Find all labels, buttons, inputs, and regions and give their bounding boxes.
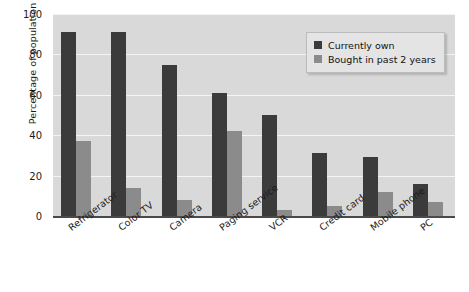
x-tick-label-mobile-phone: Mobile phone (368, 185, 427, 233)
x-tick-label-color-tv: Color TV (116, 199, 155, 232)
x-tick-label-vcr: VCR (267, 212, 290, 233)
x-tick-label-refrigerator: Refrigerator (66, 189, 119, 233)
legend-item-own: Currently own (314, 38, 436, 52)
legend-swatch-icon-own (314, 41, 322, 49)
legend-item-bought: Bought in past 2 years (314, 52, 436, 66)
bar-chart: Percentage of population 020406080100 Re… (0, 0, 469, 292)
legend-swatch-icon-bought (314, 55, 322, 63)
legend-label: Bought in past 2 years (328, 54, 436, 65)
x-tick-label-credit-card: Credit card (317, 192, 366, 233)
legend-label: Currently own (328, 40, 395, 51)
x-tick-label-camera: Camera (167, 201, 204, 233)
chart-legend: Currently ownBought in past 2 years (306, 32, 445, 73)
x-tick-label-pc: PC (418, 216, 435, 232)
